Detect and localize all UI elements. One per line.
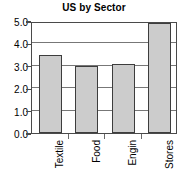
bar-slot xyxy=(69,23,106,133)
bars-layer xyxy=(32,23,176,133)
bar[interactable] xyxy=(148,23,171,133)
y-axis-tick-label: 0.0 xyxy=(0,129,28,140)
x-axis-tick-mark xyxy=(141,134,142,139)
y-axis-tick-label: 3.0 xyxy=(0,61,28,72)
x-axis-tick-label: Textile xyxy=(54,140,65,168)
x-axis-tick-mark xyxy=(68,134,69,139)
chart-title: US by Sector xyxy=(0,2,188,13)
chart-figure: US by Sector 0.01.02.03.04.05.0 TextileF… xyxy=(0,0,188,188)
x-axis-tick-label: Stores xyxy=(164,140,175,169)
bar-slot xyxy=(32,23,69,133)
bar[interactable] xyxy=(112,64,135,133)
bar-slot xyxy=(105,23,142,133)
bar-slot xyxy=(142,23,179,133)
bar[interactable] xyxy=(39,55,62,133)
x-axis-tick-label: Food xyxy=(91,140,102,163)
bar[interactable] xyxy=(75,66,98,133)
x-axis-tick-mark xyxy=(104,134,105,139)
x-axis-tick-label: Engin xyxy=(127,140,138,166)
y-axis-tick-label: 4.0 xyxy=(0,39,28,50)
plot-area xyxy=(31,22,177,134)
y-axis-tick-label: 5.0 xyxy=(0,17,28,28)
y-axis-tick-label: 2.0 xyxy=(0,84,28,95)
y-axis-tick-label: 1.0 xyxy=(0,106,28,117)
